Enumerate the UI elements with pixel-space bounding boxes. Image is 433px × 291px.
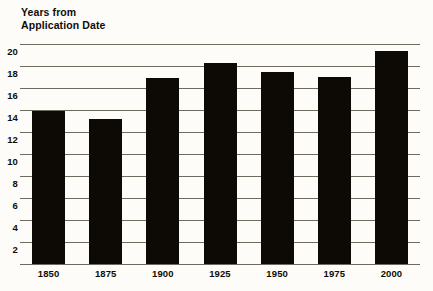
x-axis-tick-label: 1850 (19, 268, 79, 279)
bar-1875 (89, 119, 122, 264)
x-axis-tick-label: 1925 (190, 268, 250, 279)
y-axis-tick-label: 6 (0, 200, 18, 211)
x-axis-tick-label: 1900 (133, 268, 193, 279)
y-axis-tick-label: 20 (0, 46, 18, 57)
x-axis-tick-label: 1975 (304, 268, 364, 279)
y-axis-tick-label: 12 (0, 134, 18, 145)
x-axis-tick-label: 1875 (76, 268, 136, 279)
y-axis-tick-label: 14 (0, 112, 18, 123)
x-axis-tick-label: 2000 (361, 268, 421, 279)
bar-1850 (32, 111, 65, 264)
bar-1925 (204, 63, 237, 264)
bar-1950 (261, 72, 294, 265)
bar-1900 (146, 78, 179, 264)
y-axis-tick-label: 4 (0, 222, 18, 233)
gridline-20 (20, 44, 420, 45)
y-axis-tick-label: 2 (0, 244, 18, 255)
y-axis-tick-label: 18 (0, 68, 18, 79)
plot-area (20, 44, 420, 264)
y-axis-tick-label: 10 (0, 156, 18, 167)
chart-title: Years from Application Date (21, 6, 105, 31)
bar-2000 (375, 51, 408, 264)
bar-1975 (318, 77, 351, 264)
y-axis-tick-label: 16 (0, 90, 18, 101)
y-axis-tick-label: 8 (0, 178, 18, 189)
x-axis-line (20, 264, 420, 265)
bar-chart: Years from Application Date 201816141210… (0, 0, 433, 291)
x-axis-tick-label: 1950 (247, 268, 307, 279)
